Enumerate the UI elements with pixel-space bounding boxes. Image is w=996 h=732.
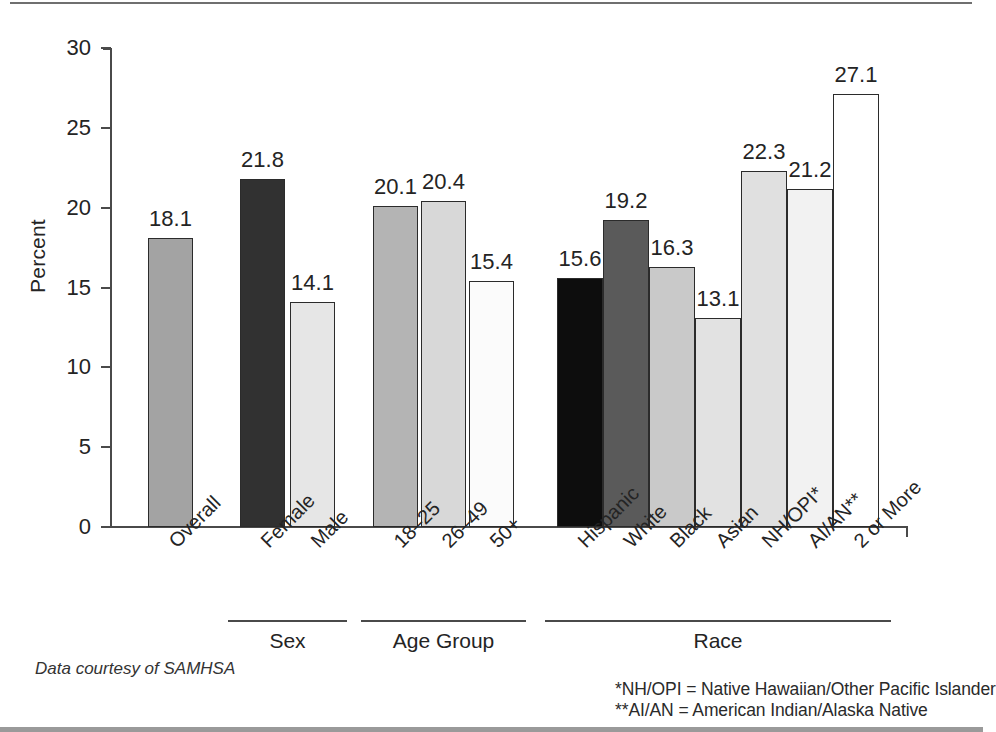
- bar-value-label: 19.2: [573, 190, 679, 212]
- footnote-nhopi: *NH/OPI = Native Hawaiian/Other Pacific …: [615, 679, 996, 700]
- group-rule: [228, 620, 347, 622]
- y-axis-tick-label: 10: [31, 356, 91, 378]
- y-axis-tick: [101, 526, 111, 528]
- source-note: Data courtesy of SAMHSA: [35, 659, 235, 679]
- bar: [240, 179, 285, 527]
- group-label: Race: [545, 630, 891, 651]
- bar: [148, 238, 193, 527]
- y-axis-tick-label: 20: [31, 197, 91, 219]
- bar: [421, 201, 466, 527]
- bar: [469, 281, 514, 527]
- bar-value-label: 18.1: [118, 208, 223, 230]
- footnote-aian: **AI/AN = American Indian/Alaska Native: [615, 700, 928, 721]
- group-rule: [361, 620, 526, 622]
- bar: [373, 206, 418, 527]
- y-axis-title: Percent: [26, 156, 50, 356]
- bar: [557, 278, 603, 527]
- y-axis-tick-label: 15: [31, 277, 91, 299]
- y-axis-tick-label: 25: [31, 117, 91, 139]
- y-axis-tick: [101, 207, 111, 209]
- bar-value-label: 27.1: [803, 64, 909, 86]
- y-axis-tick: [101, 446, 111, 448]
- group-label: Age Group: [361, 630, 526, 651]
- y-axis-tick: [101, 127, 111, 129]
- y-axis-tick: [101, 287, 111, 289]
- bar-value-label: 14.1: [260, 272, 365, 294]
- y-axis-tick-label: 5: [31, 436, 91, 458]
- x-axis-right-cap: [906, 526, 908, 537]
- bar: [741, 171, 787, 527]
- y-axis-tick: [101, 366, 111, 368]
- bar-value-label: 16.3: [619, 237, 725, 259]
- bar: [787, 189, 833, 527]
- bar: [695, 318, 741, 527]
- y-axis-tick: [101, 47, 111, 49]
- group-rule: [545, 620, 891, 622]
- bar: [603, 220, 649, 527]
- bar: [833, 94, 879, 527]
- bar: [290, 302, 335, 527]
- y-axis-tick-label: 0: [31, 516, 91, 538]
- bar-value-label: 21.8: [210, 149, 315, 171]
- group-label: Sex: [228, 630, 347, 651]
- bar-value-label: 20.4: [391, 171, 496, 193]
- y-axis-tick-label: 30: [31, 37, 91, 59]
